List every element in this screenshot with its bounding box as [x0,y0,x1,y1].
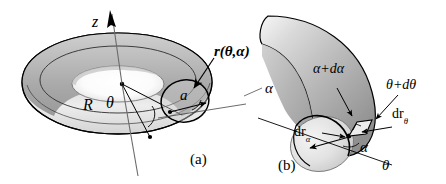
panel-a-caption: (a) [190,152,207,167]
dr-alpha-prefix: dr [294,124,306,139]
panel-b-wedge [258,16,398,180]
z-axis-arrowhead [107,10,116,28]
dr-theta-prefix: dr [392,106,404,121]
dr-theta-label: drθ [392,107,408,123]
alpha-label-panel-b: α [360,140,368,155]
panel-b-caption: (b) [278,158,296,173]
panel-a-torus [22,10,262,176]
alpha-plus-dalpha-label: α+dα [313,62,344,76]
dr-alpha-subscript: α [306,134,311,144]
dr-alpha-label: drα [294,125,310,141]
dr-theta-subscript: θ [404,116,408,126]
torus-geometry-figure: z R θ a α r(θ,α) (a) α+dα θ+dθ drα drθ α… [0,0,446,184]
tube-center-point [168,110,172,114]
theta-label-panel-b: θ [382,158,389,173]
alpha-leader-line [244,88,262,96]
figure-vector-graphics [0,0,446,184]
z-axis-label: z [92,14,98,30]
position-vector-label: r(θ,α) [214,44,250,59]
major-radius-label: R [83,97,93,113]
theta-label-panel-a: θ [106,95,114,111]
minor-radius-label: a [180,88,188,103]
theta-plus-dtheta-label: θ+dθ [386,78,416,92]
alpha-label-panel-a: α [265,81,273,96]
